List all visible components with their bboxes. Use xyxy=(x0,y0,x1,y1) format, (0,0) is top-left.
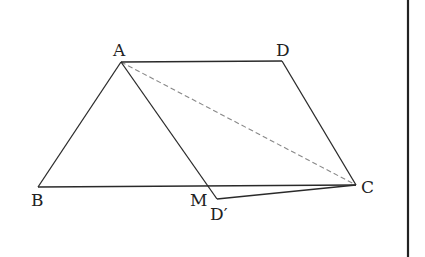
segment-AD xyxy=(121,61,282,62)
segment-AM-extended xyxy=(121,62,217,199)
label-M: M xyxy=(190,190,207,210)
segment-DC xyxy=(282,61,356,185)
label-C: C xyxy=(361,177,374,197)
label-B: B xyxy=(31,190,44,210)
segment-AC-dashed xyxy=(121,62,356,185)
segment-BC xyxy=(38,185,356,187)
segment-DpC xyxy=(217,185,356,199)
geometry-figure: A D B C M D′ xyxy=(0,0,425,257)
label-D: D xyxy=(276,40,290,60)
label-D-prime: D′ xyxy=(210,204,228,224)
segment-AB xyxy=(38,62,121,187)
label-A: A xyxy=(112,40,126,60)
